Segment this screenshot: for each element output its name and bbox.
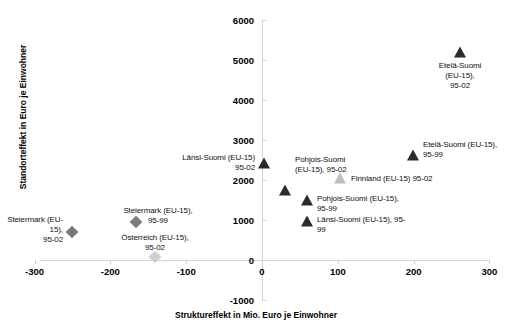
y-tick-label: -1000 (224, 295, 254, 306)
x-axis-tick (35, 260, 36, 264)
y-tick-label: 3000 (230, 135, 254, 146)
x-tick-label: 0 (259, 266, 264, 277)
point-label-finnland-95-02: Finnland (EU-15) 95-02 (351, 174, 432, 184)
x-tick-label: 100 (330, 266, 346, 277)
y-axis-tick (262, 60, 266, 61)
diamond-marker-icon (66, 226, 79, 239)
y-axis-title: Standorteffekt in Euro je Einwohner (18, 27, 28, 207)
data-point-lansi-suomi-95-99[interactable] (301, 216, 313, 227)
point-label-pohjois-suomi-95-99: Pohjois-Suomi (EU-15), 95-99 (317, 194, 399, 214)
y-axis-tick (262, 180, 266, 181)
y-axis-tick (262, 20, 266, 21)
data-point-pohjois-suomi-95-02[interactable] (279, 185, 291, 196)
y-axis-tick (262, 100, 266, 101)
scatter-chart: -300-200-1000100200300-10000100020003000… (0, 0, 512, 325)
y-tick-label: 0 (248, 255, 254, 266)
triangle-marker-icon (454, 47, 466, 58)
triangle-marker-icon (258, 158, 270, 169)
x-tick-label: -100 (177, 266, 196, 277)
triangle-marker-icon (334, 173, 346, 184)
data-point-etela-suomi-95-02[interactable] (454, 47, 466, 58)
point-label-lansi-suomi-95-99: Länsi-Suomi (EU-15), 95- 99 (317, 215, 405, 235)
y-tick-label: 1000 (230, 215, 254, 226)
y-axis-tick (262, 220, 266, 221)
x-axis-tick (110, 260, 111, 264)
triangle-marker-icon (407, 150, 419, 161)
point-label-steiermark-95-02: Steiermark (EU-15), 95-02 (0, 215, 63, 245)
point-label-etela-suomi-95-99: Etelä-Suomi (EU-15), 95-99 (423, 140, 497, 160)
x-tick-label: 200 (406, 266, 422, 277)
triangle-marker-icon (279, 185, 291, 196)
x-tick-label: 300 (482, 266, 498, 277)
y-axis-tick (262, 300, 266, 301)
y-axis-tick (262, 260, 266, 261)
x-tick-label: -200 (101, 266, 120, 277)
point-label-osterreich-95-02: Österreich (EU-15), 95-02 (121, 233, 188, 253)
y-tick-label: 2000 (230, 175, 254, 186)
data-point-steiermark-95-02[interactable] (68, 228, 77, 237)
triangle-marker-icon (301, 216, 313, 227)
y-tick-label: 6000 (230, 15, 254, 26)
y-axis-tick (262, 140, 266, 141)
data-point-etela-suomi-95-99[interactable] (407, 150, 419, 161)
data-point-osterreich-95-02[interactable] (151, 253, 160, 262)
y-tick-label: 4000 (230, 95, 254, 106)
x-tick-label: -300 (25, 266, 44, 277)
data-point-finnland-95-02[interactable] (334, 173, 346, 184)
x-axis-tick (414, 260, 415, 264)
data-point-pohjois-suomi-95-99[interactable] (301, 195, 313, 206)
x-axis-title: Struktureffekt in Mio. Euro je Einwohner (175, 310, 337, 320)
point-label-etela-suomi-95-02: Etelä-Suomi (EU-15), 95-02 (434, 61, 486, 91)
x-axis-tick (338, 260, 339, 264)
point-label-steiermark-95-99: Steiermark (EU-15), 95-99 (123, 206, 192, 226)
point-label-lansi-suomi-95-02: Länsi-Suomi (EU-15) 95-02 (0, 153, 255, 173)
data-point-lansi-suomi-95-02[interactable] (258, 158, 270, 169)
x-axis-tick (489, 260, 490, 264)
x-axis-tick (186, 260, 187, 264)
triangle-marker-icon (301, 195, 313, 206)
y-tick-label: 5000 (230, 55, 254, 66)
